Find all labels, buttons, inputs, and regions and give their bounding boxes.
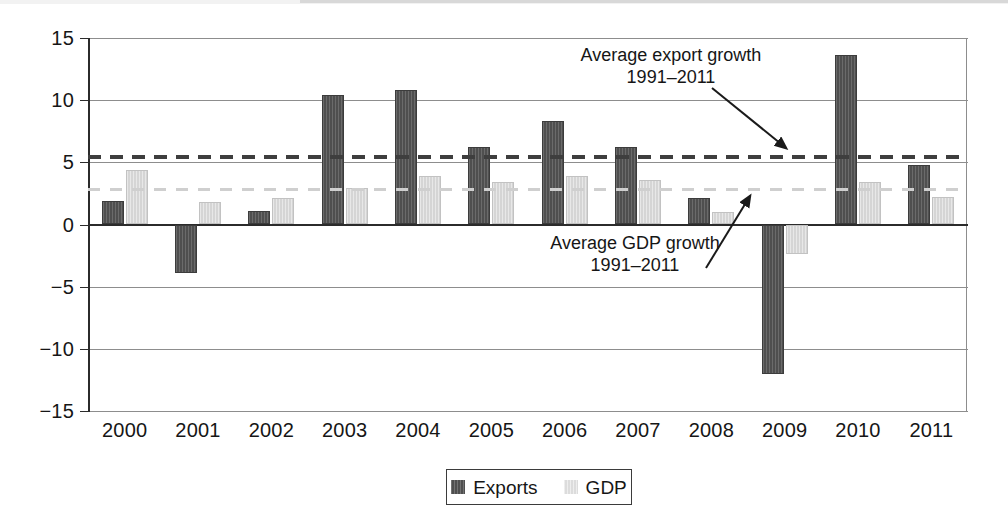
plot-area bbox=[88, 38, 968, 411]
legend-label-gdp: GDP bbox=[586, 478, 627, 497]
y-axis-tick-label: 10 bbox=[18, 90, 74, 110]
grid-line bbox=[88, 287, 968, 288]
bar-gdp-2004 bbox=[419, 176, 441, 224]
x-axis-tick-label: 2001 bbox=[158, 418, 238, 442]
bar-exports-2010 bbox=[835, 55, 857, 224]
bar-gdp-2000 bbox=[126, 170, 148, 225]
x-axis-tick-label: 2010 bbox=[818, 418, 898, 442]
chart-figure: 151050−5−10−15 2000200120022003200420052… bbox=[0, 0, 1008, 526]
x-axis-tick-label: 2008 bbox=[671, 418, 751, 442]
annotation-gdp-line2: 1991–2011 bbox=[520, 254, 750, 276]
x-axis-tick-label: 2003 bbox=[305, 418, 385, 442]
y-axis-labels: 151050−5−10−15 bbox=[6, 0, 74, 526]
bar-gdp-2009 bbox=[786, 225, 808, 255]
x-axis-tick-label: 2007 bbox=[598, 418, 678, 442]
bar-exports-2009 bbox=[762, 225, 784, 374]
legend-entry-gdp: GDP bbox=[564, 478, 627, 497]
legend-swatch-exports-icon bbox=[451, 480, 465, 494]
x-axis-labels: 2000200120022003200420052006200720082009… bbox=[88, 418, 968, 448]
bar-exports-2008 bbox=[688, 198, 710, 224]
bar-exports-2002 bbox=[248, 211, 270, 225]
annotation-export-line1: Average export growth bbox=[556, 44, 786, 66]
legend-label-exports: Exports bbox=[473, 478, 537, 497]
x-axis-tick-label: 2006 bbox=[525, 418, 605, 442]
annotation-average-gdp-growth: Average GDP growth 1991–2011 bbox=[520, 232, 750, 276]
legend-entry-exports: Exports bbox=[451, 478, 537, 497]
bar-gdp-2011 bbox=[932, 197, 954, 224]
bar-gdp-2006 bbox=[566, 176, 588, 224]
annotation-gdp-line1: Average GDP growth bbox=[520, 232, 750, 254]
annotation-export-line2: 1991–2011 bbox=[556, 66, 786, 88]
y-axis-tick bbox=[80, 287, 90, 288]
x-axis-tick-label: 2011 bbox=[891, 418, 971, 442]
bar-gdp-2002 bbox=[272, 198, 294, 224]
x-axis-tick-label: 2009 bbox=[745, 418, 825, 442]
y-axis-tick bbox=[80, 411, 90, 412]
y-axis-tick bbox=[80, 38, 90, 39]
y-axis-tick-label: −10 bbox=[18, 339, 74, 359]
chart-legend: Exports GDP bbox=[446, 469, 632, 505]
reference-line-avg-gdp bbox=[88, 188, 968, 191]
y-axis-tick bbox=[80, 349, 90, 350]
y-axis-tick-label: −5 bbox=[18, 277, 74, 297]
grid-line bbox=[88, 349, 968, 350]
annotation-average-export-growth: Average export growth 1991–2011 bbox=[556, 44, 786, 88]
y-axis-tick-label: 5 bbox=[18, 152, 74, 172]
reference-line-avg-export bbox=[88, 155, 968, 159]
bar-gdp-2008 bbox=[712, 212, 734, 224]
grid-line bbox=[88, 38, 968, 39]
x-axis-tick-label: 2002 bbox=[231, 418, 311, 442]
bar-exports-2006 bbox=[542, 121, 564, 224]
bar-exports-2011 bbox=[908, 165, 930, 225]
bar-exports-2000 bbox=[102, 201, 124, 225]
bar-exports-2003 bbox=[322, 95, 344, 224]
y-axis-tick-label: −15 bbox=[18, 401, 74, 421]
x-axis-tick-label: 2004 bbox=[378, 418, 458, 442]
bar-exports-2001 bbox=[175, 225, 197, 273]
x-axis-tick-label: 2005 bbox=[451, 418, 531, 442]
legend-swatch-gdp-icon bbox=[564, 480, 578, 494]
y-axis-tick-label: 0 bbox=[18, 215, 74, 235]
y-axis-tick bbox=[80, 162, 90, 163]
y-axis-tick bbox=[80, 225, 90, 226]
grid-line bbox=[88, 411, 968, 412]
x-axis-tick-label: 2000 bbox=[85, 418, 165, 442]
bar-gdp-2001 bbox=[199, 202, 221, 224]
bar-gdp-2007 bbox=[639, 180, 661, 225]
y-axis-tick-label: 15 bbox=[18, 28, 74, 48]
bar-gdp-2003 bbox=[346, 188, 368, 224]
y-axis-tick bbox=[80, 100, 90, 101]
